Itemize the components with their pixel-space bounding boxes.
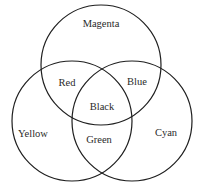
label-green: Green — [86, 134, 112, 145]
label-red: Red — [59, 77, 77, 88]
label-yellow: Yellow — [18, 128, 48, 139]
label-cyan: Cyan — [155, 127, 178, 138]
label-black: Black — [90, 101, 115, 112]
venn-diagram: Magenta Red Blue Black Yellow Green Cyan — [0, 0, 204, 189]
label-magenta: Magenta — [83, 18, 120, 29]
label-blue: Blue — [127, 76, 147, 87]
